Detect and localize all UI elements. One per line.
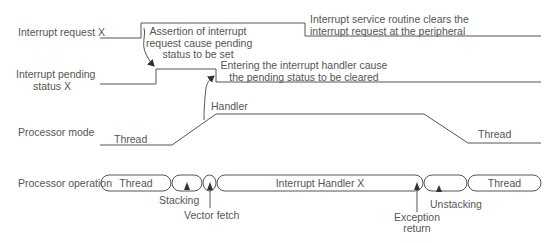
entering-line2: the pending status to be cleared (218, 71, 390, 83)
exception-return-line2: return (389, 223, 445, 234)
processor-mode-waveform (100, 114, 541, 145)
marker-label-stacking: Stacking (159, 194, 199, 206)
signal-label-interrupt-request: Interrupt request X (18, 26, 105, 38)
vector-fetch-marker-icon (207, 182, 213, 190)
mode-label-thread-right: Thread (478, 128, 511, 140)
annotation-isr-clears: Interrupt service routine clears the int… (310, 13, 469, 37)
pending-status-line1: Interrupt pending (16, 68, 88, 80)
signal-label-processor-mode: Processor mode (18, 126, 94, 138)
annotation-assertion: Assertion of interrupt request cause pen… (146, 26, 250, 61)
mode-label-handler: Handler (211, 100, 248, 112)
isr-clears-line1: Interrupt service routine clears the (310, 13, 469, 25)
marker-label-unstacking: Unstacking (430, 198, 482, 210)
isr-clears-line2: interrupt request at the peripheral (310, 25, 469, 37)
stacking-marker-icon (184, 182, 190, 190)
assertion-line1: Assertion of interrupt (146, 26, 250, 38)
signal-label-pending-status: Interrupt pending status X (16, 68, 88, 92)
marker-label-exception-return: Exception return (389, 212, 445, 234)
op-label-thread-2: Thread (468, 177, 541, 189)
annotation-entering-handler: Entering the interrupt handler cause the… (218, 59, 390, 83)
entering-handler-arrow (204, 76, 214, 120)
op-label-thread-1: Thread (101, 177, 171, 189)
unstacking-marker-icon (436, 185, 442, 192)
entering-line1: Entering the interrupt handler cause (218, 59, 390, 71)
signal-label-processor-operation: Processor operation (18, 177, 112, 189)
op-label-handler: Interrupt Handler X (217, 177, 423, 189)
pending-status-line2: status X (16, 80, 88, 92)
mode-label-thread-left: Thread (114, 133, 147, 145)
marker-label-vector-fetch: Vector fetch (184, 209, 239, 221)
op-segment-unstacking (424, 175, 467, 191)
